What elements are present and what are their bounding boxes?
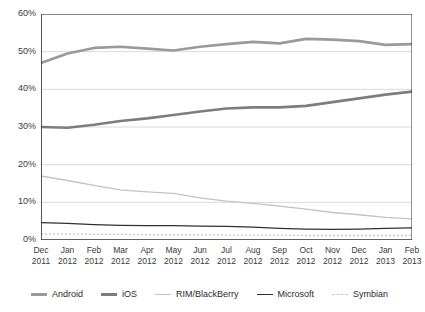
plot-area <box>41 14 412 240</box>
x-tick-month: Dec <box>28 245 55 256</box>
x-tick-label: Jan2012 <box>54 245 81 267</box>
legend-item[interactable]: iOS <box>101 289 137 299</box>
legend-item[interactable]: Symbian <box>332 289 388 299</box>
x-tick-month: Feb <box>399 245 425 256</box>
series-line-ios <box>41 92 412 128</box>
y-tick-label: 0% <box>4 235 36 244</box>
x-tick-year: 2011 <box>28 256 55 267</box>
x-tick-month: Jan <box>54 245 81 256</box>
x-tick-year: 2012 <box>54 256 81 267</box>
legend-item[interactable]: RIM/BlackBerry <box>155 289 239 299</box>
x-tick-month: Nov <box>319 245 346 256</box>
legend-label: iOS <box>122 289 137 299</box>
x-tick-month: Oct <box>293 245 320 256</box>
legend-item[interactable]: Android <box>31 289 83 299</box>
series-line-symbian <box>41 234 412 236</box>
x-tick-label: Oct2012 <box>293 245 320 267</box>
x-tick-year: 2012 <box>187 256 214 267</box>
x-tick-month: Jun <box>187 245 214 256</box>
x-tick-month: Feb <box>81 245 108 256</box>
legend-label: Android <box>52 289 83 299</box>
x-tick-month: Dec <box>346 245 373 256</box>
plot-svg <box>41 14 412 240</box>
x-tick-label: Mar2012 <box>107 245 134 267</box>
y-tick-label: 40% <box>4 84 36 93</box>
x-tick-year: 2012 <box>160 256 187 267</box>
x-tick-month: Jul <box>213 245 240 256</box>
x-tick-label: Apr2012 <box>134 245 161 267</box>
x-tick-label: Jun2012 <box>187 245 214 267</box>
x-tick-year: 2012 <box>134 256 161 267</box>
series-line-rim-blackberry <box>41 176 412 219</box>
x-tick-year: 2013 <box>372 256 399 267</box>
x-tick-label: May2012 <box>160 245 187 267</box>
y-tick-label: 60% <box>4 9 36 18</box>
x-tick-year: 2012 <box>240 256 267 267</box>
legend-item[interactable]: Microsoft <box>257 289 315 299</box>
x-tick-label: Dec2012 <box>346 245 373 267</box>
chart-legend: AndroidiOSRIM/BlackBerryMicrosoftSymbian <box>0 286 419 302</box>
x-tick-year: 2012 <box>346 256 373 267</box>
legend-swatch-icon <box>101 293 117 296</box>
x-tick-year: 2013 <box>399 256 425 267</box>
x-tick-label: Jan2013 <box>372 245 399 267</box>
x-tick-month: Jan <box>372 245 399 256</box>
legend-swatch-icon <box>155 294 171 295</box>
x-tick-label: Feb2013 <box>399 245 425 267</box>
series-line-microsoft <box>41 223 412 230</box>
x-tick-label: Aug2012 <box>240 245 267 267</box>
series-line-android <box>41 39 412 63</box>
legend-swatch-icon <box>31 293 47 296</box>
y-tick-label: 30% <box>4 122 36 131</box>
legend-label: Symbian <box>353 289 388 299</box>
x-tick-month: Mar <box>107 245 134 256</box>
y-tick-label: 20% <box>4 160 36 169</box>
x-tick-label: Dec2011 <box>28 245 55 267</box>
y-tick-label: 10% <box>4 197 36 206</box>
x-tick-label: Sep2012 <box>266 245 293 267</box>
legend-swatch-icon <box>332 294 348 295</box>
chart-title <box>0 0 419 2</box>
x-tick-month: Sep <box>266 245 293 256</box>
y-tick-label: 50% <box>4 47 36 56</box>
x-tick-year: 2012 <box>81 256 108 267</box>
x-axis-labels: Dec2011Jan2012Feb2012Mar2012Apr2012May20… <box>41 245 412 273</box>
legend-label: Microsoft <box>278 289 315 299</box>
x-tick-label: Nov2012 <box>319 245 346 267</box>
x-tick-year: 2012 <box>107 256 134 267</box>
legend-label: RIM/BlackBerry <box>176 289 239 299</box>
x-tick-label: Jul2012 <box>213 245 240 267</box>
x-tick-year: 2012 <box>319 256 346 267</box>
x-tick-month: Apr <box>134 245 161 256</box>
x-tick-year: 2012 <box>266 256 293 267</box>
x-tick-label: Feb2012 <box>81 245 108 267</box>
x-tick-month: May <box>160 245 187 256</box>
x-tick-month: Aug <box>240 245 267 256</box>
legend-swatch-icon <box>257 294 273 295</box>
x-tick-year: 2012 <box>293 256 320 267</box>
x-tick-year: 2012 <box>213 256 240 267</box>
